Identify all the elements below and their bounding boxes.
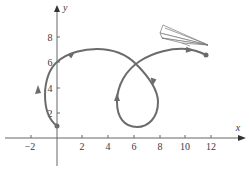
x-axis-arrow-icon: [238, 135, 246, 141]
x-tick-label: −2: [25, 141, 36, 152]
x-tick-label: 6: [132, 141, 137, 152]
direction-arrow-icon: [114, 93, 120, 101]
y-tick-label: 4: [48, 83, 53, 94]
end-point: [204, 53, 209, 58]
y-axis: 8 6 4 2 y: [48, 2, 69, 166]
trajectory-curve: [35, 47, 209, 129]
y-tick-label: 6: [48, 57, 53, 68]
x-tick-label: 2: [80, 141, 85, 152]
x-tick-label: 8: [158, 141, 163, 152]
start-point: [55, 124, 60, 129]
figure: −2 2 4 6 8 10 12 x 8 6 4 2 y: [0, 0, 249, 173]
paper-airplane-icon: [160, 25, 208, 46]
x-axis-label: x: [235, 122, 241, 133]
x-tick-label: 4: [106, 141, 111, 152]
direction-arrow-icon: [35, 85, 41, 94]
x-tick-label: 12: [206, 141, 216, 152]
y-axis-arrow-icon: [54, 5, 60, 12]
y-tick-label: 8: [48, 32, 53, 43]
direction-arrow-icon: [186, 47, 194, 54]
y-axis-label: y: [62, 2, 68, 13]
x-axis: −2 2 4 6 8 10 12 x: [5, 122, 246, 152]
x-tick-label: 10: [180, 141, 190, 152]
